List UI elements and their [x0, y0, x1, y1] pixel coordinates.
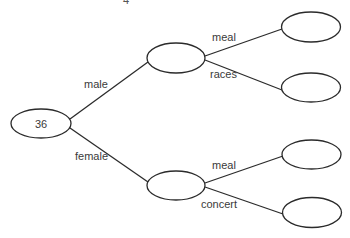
edge-label-female: female: [75, 150, 108, 162]
node-male: [147, 43, 205, 73]
node-female-meal: [282, 140, 341, 169]
node-male-races: [282, 73, 341, 102]
node-male-meal: [282, 12, 341, 42]
edge-label-male: male: [84, 78, 108, 90]
edge-label-male-meal: meal: [212, 31, 236, 43]
node-female: [147, 171, 205, 200]
node-female-concert: [283, 198, 342, 228]
edge-label-male-races: races: [210, 68, 237, 80]
root-node-label: 36: [35, 118, 47, 130]
edge-male: [70, 62, 148, 119]
tree-diagram: 4 36 male female meal races meal concert: [0, 0, 350, 238]
edge-label-female-concert: concert: [201, 198, 237, 210]
top-cut-text: 4: [123, 0, 129, 6]
edge-label-female-meal: meal: [212, 159, 236, 171]
